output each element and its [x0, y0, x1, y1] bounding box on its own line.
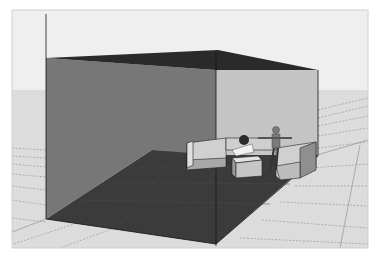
- room-render: [0, 0, 378, 257]
- coffee-table: [232, 156, 262, 178]
